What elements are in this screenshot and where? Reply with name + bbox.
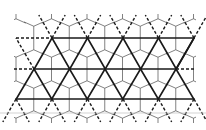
tiling-edge	[0, 84, 8, 88]
lattice-edge	[105, 69, 123, 99]
tiling-edge	[16, 19, 26, 23]
lattice-edge	[123, 69, 141, 99]
lattice-edge-dashed	[16, 99, 29, 122]
lattice-edge	[176, 38, 194, 69]
tiling-edge	[123, 19, 133, 23]
tiling-edge	[123, 114, 133, 118]
lattice-edge-dashed	[3, 99, 16, 122]
tiling-edge	[158, 114, 168, 118]
lattice-edge-dashed	[194, 15, 206, 38]
tiling-edge	[69, 50, 79, 54]
lattice-edge-dashed	[74, 15, 87, 38]
lattice-edge-dashed	[52, 15, 65, 38]
tiling-edge	[176, 22, 186, 26]
tiling-edge	[176, 84, 186, 88]
tiling-edge	[194, 53, 204, 57]
lattice-edge	[52, 69, 70, 99]
lattice-edge-dashed	[16, 38, 34, 69]
tiling-edge	[16, 53, 26, 57]
tiling-edge	[194, 81, 204, 85]
lattice-edge	[123, 38, 141, 69]
lattice-edge-dashed	[181, 15, 194, 38]
lattice-edge	[87, 69, 105, 99]
diagram-canvas: Triangular lattice overlaid on pentagona…	[0, 0, 206, 130]
tiling-edge	[158, 19, 168, 23]
tiling-edge	[69, 22, 79, 26]
lattice-edge-dashed	[194, 99, 206, 122]
tiling-edge	[0, 50, 8, 54]
lattice-edge	[34, 69, 52, 99]
tiling-edge	[87, 53, 97, 57]
tiling-edge	[194, 19, 204, 23]
tiling-edge	[34, 50, 44, 54]
tiling-edge	[34, 84, 44, 88]
lattice-edge-dashed	[88, 15, 101, 38]
lattice-edge-dashed	[39, 15, 52, 38]
tiling-edge	[87, 114, 97, 118]
tiling-edge	[52, 19, 62, 23]
tiling-edge	[0, 22, 8, 26]
lattice-edge-dashed	[110, 15, 123, 38]
lattice-edge	[105, 38, 123, 69]
tiling-edge	[201, 50, 206, 54]
lattice-edge	[159, 38, 177, 69]
lattice-tiling-figure	[0, 0, 206, 130]
tiling-edge	[201, 84, 206, 88]
tiling-edge	[6, 53, 16, 57]
tiling-edge	[158, 53, 168, 57]
tiling-edge	[194, 114, 204, 118]
lattice-edge-dashed	[145, 99, 158, 122]
lattice-edge-dashed	[123, 15, 136, 38]
tiling-edge	[105, 84, 115, 88]
lattice-edge-dashed	[39, 99, 52, 122]
tiling-edge	[105, 22, 115, 26]
lattice-edge	[158, 69, 176, 99]
tiling-edge	[6, 81, 16, 85]
tiling-edge	[176, 50, 186, 54]
lattice-edge	[34, 38, 52, 69]
lattice-edge	[88, 38, 106, 69]
tiling-edge	[24, 22, 34, 26]
lattice-edge-dashed	[110, 99, 123, 122]
tiling-edge	[105, 50, 115, 54]
tiling-edge	[140, 22, 150, 26]
lattice-edge	[176, 69, 194, 99]
tiling-edge	[140, 84, 150, 88]
tiling-edge	[123, 53, 133, 57]
lattice-edge-dashed	[159, 15, 172, 38]
tiling-edge	[6, 19, 16, 23]
lattice-edge-dashed	[145, 15, 158, 38]
tiling-edge	[52, 53, 62, 57]
tiling-edge	[140, 50, 150, 54]
lattice-edge	[52, 38, 70, 69]
lattice-edge	[70, 38, 88, 69]
tiling-edge	[34, 22, 44, 26]
tiling-edge	[69, 84, 79, 88]
lattice-edge-dashed	[123, 99, 136, 122]
lattice-edge-dashed	[74, 99, 87, 122]
lattice-edge-dashed	[181, 99, 194, 122]
lattice-edge-dashed	[159, 99, 172, 122]
lattice-edge	[70, 69, 88, 99]
lattice-edge-dashed	[52, 99, 65, 122]
lattice-edge	[16, 69, 34, 99]
lattice-edge	[141, 69, 159, 99]
tiling-edge	[52, 114, 62, 118]
tiling-edge	[87, 19, 97, 23]
lattice-edge	[141, 38, 159, 69]
lattice-edge-dashed	[88, 99, 101, 122]
